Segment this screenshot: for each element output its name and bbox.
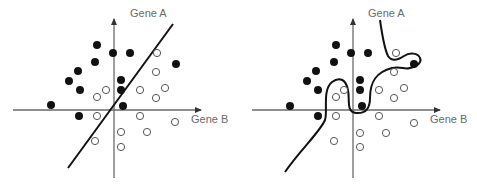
filled-point bbox=[330, 58, 338, 66]
filled-point bbox=[303, 77, 311, 85]
filled-point bbox=[358, 102, 366, 110]
filled-point bbox=[75, 112, 83, 120]
data-points bbox=[286, 41, 418, 151]
panel-linear: Gene A Gene B bbox=[13, 7, 228, 178]
panel-nonlinear: Gene A Gene B bbox=[252, 7, 467, 178]
open-point bbox=[93, 112, 100, 119]
filled-point bbox=[314, 112, 322, 120]
open-point bbox=[375, 112, 382, 119]
filled-point bbox=[74, 67, 82, 75]
open-point bbox=[375, 86, 382, 93]
filled-point bbox=[117, 86, 125, 94]
open-point bbox=[392, 49, 399, 56]
open-point bbox=[330, 137, 337, 144]
open-point bbox=[340, 86, 347, 93]
open-point bbox=[332, 112, 339, 119]
filled-point bbox=[91, 58, 99, 66]
filled-point bbox=[332, 41, 340, 49]
open-point bbox=[400, 84, 407, 91]
open-point bbox=[356, 143, 363, 150]
filled-point bbox=[410, 60, 418, 68]
filled-point bbox=[47, 101, 55, 109]
x-axis-label: Gene B bbox=[430, 113, 467, 125]
open-point bbox=[117, 128, 124, 135]
filled-point bbox=[312, 67, 320, 75]
open-point bbox=[102, 86, 109, 93]
filled-point bbox=[347, 49, 355, 57]
x-axis-label: Gene B bbox=[191, 113, 228, 125]
open-point bbox=[152, 68, 159, 75]
diagram-canvas: Gene A Gene B Gene A Gene B bbox=[0, 0, 477, 189]
filled-point bbox=[126, 49, 134, 57]
filled-point bbox=[119, 102, 127, 110]
filled-point bbox=[93, 41, 101, 49]
y-axis-label: Gene A bbox=[368, 7, 405, 19]
open-point bbox=[390, 94, 397, 101]
filled-point bbox=[364, 49, 372, 57]
open-point bbox=[143, 128, 150, 135]
filled-point bbox=[117, 76, 125, 84]
filled-point bbox=[356, 76, 364, 84]
open-point bbox=[117, 143, 124, 150]
open-point bbox=[93, 93, 100, 100]
filled-point bbox=[286, 102, 294, 110]
open-point bbox=[382, 129, 389, 136]
y-axis-label: Gene A bbox=[130, 7, 167, 19]
filled-point bbox=[314, 86, 322, 94]
filled-point bbox=[76, 86, 84, 94]
filled-point bbox=[172, 60, 180, 68]
open-point bbox=[356, 129, 363, 136]
open-point bbox=[410, 119, 417, 126]
filled-point bbox=[109, 49, 117, 57]
open-point bbox=[390, 68, 397, 75]
filled-point bbox=[356, 86, 364, 94]
figure: Gene A Gene B Gene A Gene B bbox=[0, 0, 477, 189]
open-point bbox=[136, 112, 143, 119]
open-point bbox=[136, 86, 143, 93]
filled-point bbox=[65, 77, 73, 85]
open-point bbox=[91, 137, 98, 144]
open-point bbox=[161, 84, 168, 91]
open-point bbox=[152, 94, 159, 101]
open-point bbox=[332, 93, 339, 100]
open-point bbox=[171, 118, 178, 125]
open-point bbox=[153, 49, 160, 56]
